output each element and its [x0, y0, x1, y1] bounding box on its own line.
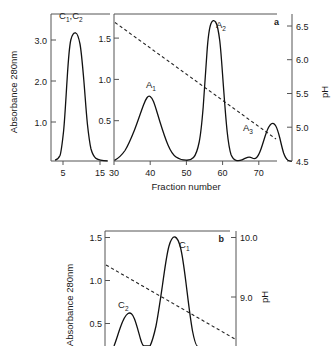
- panel-a-phtick-65: 6.5: [296, 22, 309, 32]
- panel-a-ph-axis: [287, 14, 292, 161]
- peak-label-a2: A2: [216, 19, 226, 32]
- peak-label-a1: A1: [146, 79, 156, 92]
- panel-a-phtick-45: 4.5: [296, 157, 309, 167]
- panel-b-ytick-05: 0.5: [89, 319, 102, 329]
- panel-b-svg: Absorbance 280nm 1.5 1.0 0.5: [0, 195, 336, 346]
- panel-b-ph-axis: [231, 231, 236, 346]
- panel-a-phtick-55: 5.5: [296, 89, 309, 99]
- panel-a-phtick-60: 6.0: [296, 55, 309, 65]
- panel-a-left-xtick-5: 5: [60, 168, 65, 178]
- panel-a-right-absorbance-curve: [115, 21, 292, 162]
- panel-b-phtick-100: 10.0: [240, 233, 258, 243]
- panel-a-xtick-40: 40: [145, 168, 155, 178]
- panel-b-ph-axis-title: pH: [259, 291, 270, 303]
- panel-a-mid-ytick-05: 0.5: [98, 116, 111, 126]
- panel-b-ph-gradient-line: [106, 265, 235, 339]
- panel-a-left-ytick-1: 1.0: [34, 118, 47, 128]
- panel-b-ytick-10: 1.0: [89, 276, 102, 286]
- panel-b-letter: b: [219, 234, 225, 244]
- panel-b-absorbance-curve: [114, 237, 198, 346]
- peak-label-c1c2: C1,C2: [59, 10, 83, 23]
- panel-b: Absorbance 280nm 1.5 1.0 0.5: [0, 195, 336, 346]
- peak-label-b-c1: C1: [179, 239, 190, 252]
- panel-a-left-x-ticks: [63, 161, 100, 165]
- panel-a-x-axis-title: Fraction number: [151, 181, 220, 192]
- figure-chromatofocusing-profiles: Absorbance 280nm 3.0 2.0 1.0 5 15 C: [0, 0, 336, 346]
- panel-a-right-x-ticks: [114, 161, 259, 165]
- panel-a-phtick-50: 5.0: [296, 123, 309, 133]
- peak-label-b-c2: C2: [118, 299, 129, 312]
- panel-b-ytick-15: 1.5: [89, 233, 102, 243]
- panel-a-left-absorbance-curve: [55, 33, 108, 161]
- panel-a-ph-gradient-line: [115, 23, 276, 140]
- panel-b-frame: [105, 231, 230, 346]
- panel-a-svg: Absorbance 280nm 3.0 2.0 1.0 5 15 C: [0, 0, 336, 195]
- panel-a-xtick-60: 60: [218, 168, 228, 178]
- panel-a-y-axis-title: Absorbance 280nm: [8, 51, 19, 133]
- panel-a-left-ytick-2: 2.0: [34, 77, 47, 87]
- panel-b-y-axis-title: Absorbance 280nm: [64, 264, 75, 346]
- panel-a-left-ytick-3: 3.0: [34, 36, 47, 46]
- panel-a-xtick-50: 50: [181, 168, 191, 178]
- panel-a-mid-ytick-15: 1.5: [98, 34, 111, 44]
- panel-b-phtick-90: 9.0: [240, 293, 253, 303]
- panel-a: Absorbance 280nm 3.0 2.0 1.0 5 15 C: [0, 0, 336, 195]
- peak-label-a3: A3: [243, 122, 253, 135]
- panel-a-ph-axis-title: pH: [319, 86, 330, 98]
- panel-a-right-frame: [114, 14, 277, 161]
- panel-a-xtick-30: 30: [109, 168, 119, 178]
- panel-a-left-xtick-15: 15: [95, 168, 105, 178]
- panel-a-mid-y-ticks: [114, 38, 119, 121]
- panel-a-left-y-ticks: [51, 40, 56, 122]
- panel-b-y-ticks: [105, 238, 110, 324]
- panel-a-letter: a: [274, 17, 280, 27]
- panel-a-mid-ytick-10: 1.0: [98, 75, 111, 85]
- panel-a-xtick-70: 70: [254, 168, 264, 178]
